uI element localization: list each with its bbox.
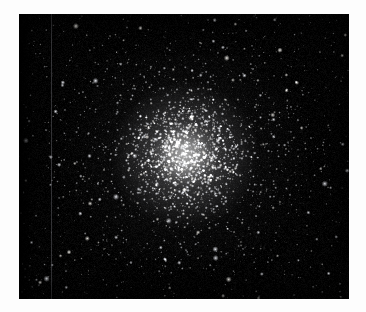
starfield-canvas xyxy=(19,14,349,299)
globular-cluster-plate xyxy=(19,14,349,299)
page-canvas xyxy=(0,0,366,312)
